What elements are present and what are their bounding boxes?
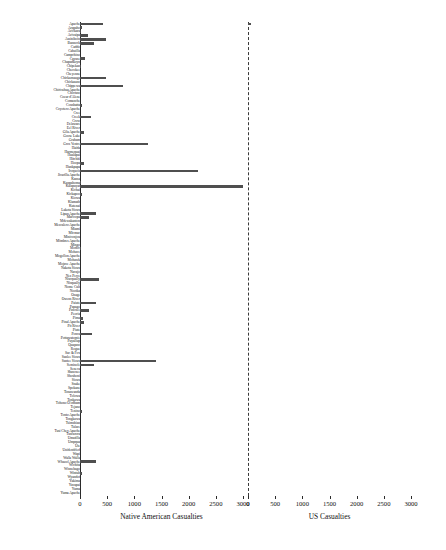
native-american-casualties-bar xyxy=(80,38,106,41)
native-american-casualties-bar xyxy=(80,170,198,173)
native-american-casualties-bar xyxy=(80,34,88,37)
native-american-casualties-bar xyxy=(80,42,94,45)
axis-tick xyxy=(302,496,303,499)
native-american-casualties-bar xyxy=(80,162,84,165)
axis-tick xyxy=(189,496,190,499)
chart-row: Yuma Apache xyxy=(0,491,446,495)
right-axis-tick-label: 3000 xyxy=(404,500,417,507)
native-american-casualties-bar xyxy=(80,85,123,88)
native-american-casualties-bar xyxy=(80,278,99,281)
native-american-casualties-bar xyxy=(80,321,84,324)
native-american-casualties-bar xyxy=(80,460,96,463)
native-american-casualties-bar xyxy=(80,212,96,215)
native-american-casualties-bar xyxy=(80,143,148,146)
native-american-casualties-bar xyxy=(80,23,103,26)
native-american-casualties-bar xyxy=(80,131,84,134)
right-axis-tick-label: 2000 xyxy=(350,500,363,507)
category-label: Yuma Apache xyxy=(2,491,80,495)
native-american-casualties-bar xyxy=(80,116,91,119)
right-bar-cell xyxy=(248,491,411,495)
native-american-casualties-bar xyxy=(80,410,82,413)
native-american-casualties-bar xyxy=(80,185,243,188)
axis-tick xyxy=(357,496,358,499)
axis-tick xyxy=(216,496,217,499)
native-american-casualties-bar xyxy=(80,364,94,367)
left-axis-title: Native American Casualties xyxy=(120,512,203,521)
native-american-casualties-bar xyxy=(80,317,83,320)
left-axis-tick-label: 2000 xyxy=(182,500,195,507)
native-american-casualties-bar xyxy=(80,26,82,29)
axis-tick xyxy=(107,496,108,499)
axis-tick xyxy=(134,496,135,499)
native-american-casualties-bar xyxy=(80,360,156,363)
native-american-casualties-bar xyxy=(80,193,82,196)
axis-tick xyxy=(80,496,81,499)
right-axis-tick-label: 1500 xyxy=(323,500,336,507)
left-bar-cell xyxy=(80,491,243,495)
axis-tick xyxy=(411,496,412,499)
native-american-casualties-bar xyxy=(80,302,96,305)
native-american-casualties-bar xyxy=(80,30,81,33)
axis-tick xyxy=(162,496,163,499)
axis-tick xyxy=(243,496,244,499)
left-axis-tick-label: 500 xyxy=(102,500,112,507)
native-american-casualties-bar xyxy=(80,247,81,250)
native-american-casualties-bar xyxy=(80,309,89,312)
right-axis-tick-label: 500 xyxy=(270,500,280,507)
right-axis-title: US Casualties xyxy=(309,512,351,521)
native-american-casualties-bar xyxy=(80,104,82,107)
left-axis-tick-label: 0 xyxy=(78,500,81,507)
right-axis-tick-label: 0 xyxy=(246,500,249,507)
right-axis-tick-label: 2500 xyxy=(377,500,390,507)
axis-tick xyxy=(248,496,249,499)
left-axis-tick-label: 1000 xyxy=(128,500,141,507)
native-american-casualties-bar xyxy=(80,65,81,68)
axis-tick xyxy=(330,496,331,499)
native-american-casualties-bar xyxy=(80,216,89,219)
native-american-casualties-bar xyxy=(80,57,85,60)
native-american-casualties-bar xyxy=(80,77,106,80)
axis-tick xyxy=(384,496,385,499)
axis-area: 050010001500200025003000Native American … xyxy=(0,496,446,550)
right-axis-tick-label: 1000 xyxy=(296,500,309,507)
native-american-casualties-bar xyxy=(80,333,92,336)
axis-tick xyxy=(275,496,276,499)
native-american-casualties-bar xyxy=(80,181,81,184)
us-casualties-bar xyxy=(248,23,251,26)
casualties-butterfly-chart: ApacheArapahoArickaraArivaipaAssiniboinB… xyxy=(0,0,446,550)
left-axis-tick-label: 2500 xyxy=(209,500,222,507)
plot-area: ApacheArapahoArickaraArivaipaAssiniboinB… xyxy=(0,22,446,496)
native-american-casualties-bar xyxy=(80,472,82,475)
left-axis-tick-label: 1500 xyxy=(155,500,168,507)
